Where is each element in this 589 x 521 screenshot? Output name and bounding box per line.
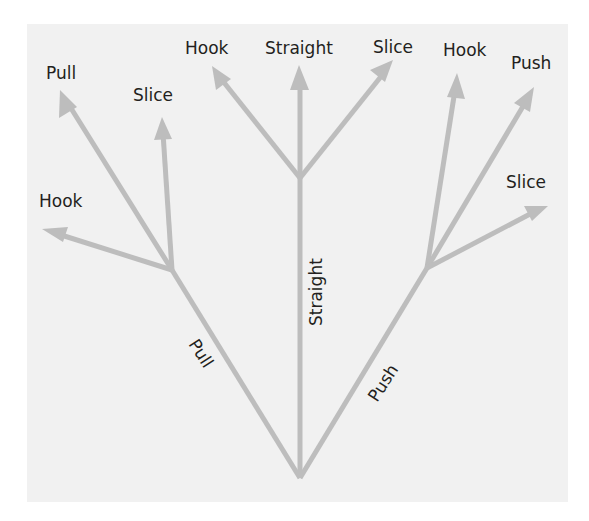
arrowhead-icon <box>370 60 393 82</box>
mid-slice-branch <box>300 74 383 178</box>
arrowhead-icon <box>154 117 172 140</box>
arrowhead-icon <box>514 87 534 112</box>
trunk-pull-line <box>172 270 300 478</box>
arrowhead-icon <box>42 227 68 242</box>
label-trunk-straight: Straight <box>306 258 326 326</box>
arrowhead-icon <box>447 73 465 99</box>
ball-flight-tree-diagram: Pull Slice Hook Hook Straight Slice Hook… <box>0 0 589 521</box>
label-mid-straight: Straight <box>265 38 333 58</box>
label-mid-slice: Slice <box>373 37 413 57</box>
arrowhead-icon <box>290 65 309 90</box>
label-right-push: Push <box>511 53 551 73</box>
label-left-hook: Hook <box>39 191 83 211</box>
label-left-pull: Pull <box>46 63 76 83</box>
mid-hook-branch <box>222 80 300 178</box>
label-mid-hook: Hook <box>185 38 229 58</box>
left-pull-branch <box>69 105 172 270</box>
label-right-hook: Hook <box>443 40 487 60</box>
label-left-slice: Slice <box>133 85 173 105</box>
left-slice-branch <box>163 133 172 270</box>
label-right-slice: Slice <box>506 172 546 192</box>
